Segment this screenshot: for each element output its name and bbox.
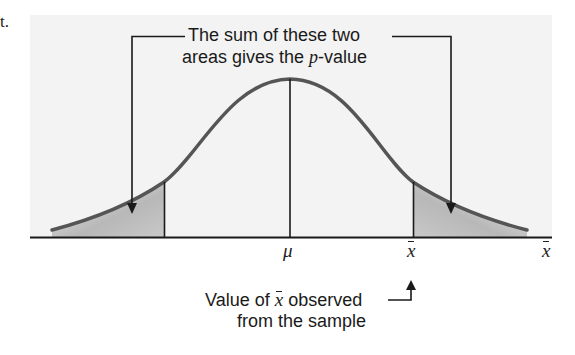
right-tail-area bbox=[413, 182, 527, 237]
observed-x-bar-label: x bbox=[407, 240, 415, 262]
right-callout-connector bbox=[392, 37, 451, 206]
left-tail-area bbox=[52, 182, 164, 237]
left-callout-connector bbox=[132, 37, 185, 206]
p-value-diagram: t. bbox=[0, 0, 575, 355]
callout-top-line1: The sum of these two bbox=[188, 25, 360, 46]
callout-top-line2: areas gives the p-value bbox=[182, 47, 367, 68]
mean-label: μ bbox=[283, 240, 293, 262]
axis-x-bar-label: x bbox=[542, 240, 550, 262]
up-arrowhead-icon bbox=[406, 280, 416, 290]
callout-bottom-line2: from the sample bbox=[237, 311, 366, 332]
x-bar-symbol: x bbox=[275, 289, 283, 310]
callout-bottom-line1: Value of x observed bbox=[205, 289, 362, 311]
